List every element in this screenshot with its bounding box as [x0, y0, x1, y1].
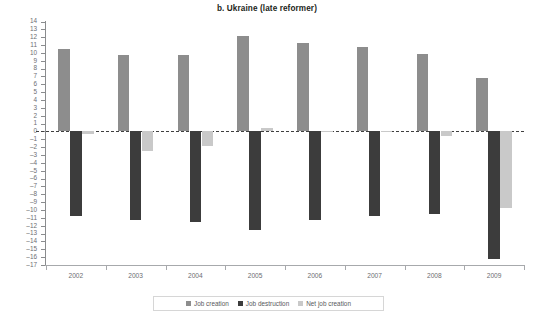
y-tick-label: 3 [33, 105, 37, 111]
x-tick-mark [524, 265, 525, 270]
bar-net-job-creation [441, 131, 453, 136]
legend-item: Net job creation [298, 300, 351, 307]
y-tick-label: –6 [30, 175, 37, 181]
x-tick-label-2004: 2004 [175, 272, 215, 279]
y-tick-label: –11 [27, 215, 37, 221]
y-tick-label: –14 [26, 238, 37, 244]
bar-net-job-creation [261, 128, 273, 132]
y-tick-label: 6 [33, 81, 37, 87]
bar-net-job-creation [202, 131, 214, 145]
chart-figure: b. Ukraine (late reformer) Percent 14131… [0, 0, 534, 319]
y-tick-label: 9 [33, 58, 37, 64]
y-tick-label: 1 [33, 120, 37, 126]
y-tick-label: –5 [30, 168, 37, 174]
x-tick-label-2006: 2006 [295, 272, 335, 279]
y-tick-label: –3 [30, 152, 37, 158]
y-tick-label: –4 [30, 160, 37, 166]
bar-job-destruction [249, 131, 261, 229]
y-axis: 14131211109876543210–1–2–3–4–5–6–7–8–9–1… [0, 0, 46, 319]
legend-item: Job creation [186, 300, 229, 307]
y-tick-label: –17 [26, 262, 37, 268]
x-tick-label-2008: 2008 [414, 272, 454, 279]
bar-job-creation [357, 47, 369, 131]
y-tick-label: 4 [33, 97, 37, 103]
bar-job-destruction [190, 131, 202, 221]
x-tick-label-2007: 2007 [355, 272, 395, 279]
y-tick-label: 5 [33, 89, 37, 95]
x-tick-mark [285, 265, 286, 270]
x-tick-mark [106, 265, 107, 270]
x-tick-label-2002: 2002 [56, 272, 96, 279]
x-tick-mark [46, 265, 47, 270]
y-tick-label: 2 [33, 113, 37, 119]
y-tick-label: –13 [26, 230, 37, 236]
x-tick-mark [464, 265, 465, 270]
chart-title: b. Ukraine (late reformer) [0, 4, 534, 13]
bar-net-job-creation [321, 131, 333, 132]
bar-job-creation [58, 49, 70, 131]
bar-job-destruction [309, 131, 321, 220]
x-tick-mark [345, 265, 346, 270]
y-tick-label: –2 [30, 144, 37, 150]
x-tick-mark [225, 265, 226, 270]
bar-job-creation [118, 55, 130, 131]
y-tick-label: –15 [26, 246, 37, 252]
y-tick-label: 8 [33, 65, 37, 71]
y-tick-label: –9 [30, 199, 37, 205]
bar-net-job-creation [500, 131, 512, 208]
y-tick-label: 10 [30, 50, 37, 56]
chart-legend: Job creationJob destructionNet job creat… [153, 296, 384, 311]
legend-label: Job creation [194, 300, 229, 307]
legend-swatch-icon [186, 301, 191, 306]
y-tick-label: 12 [30, 34, 37, 40]
bar-net-job-creation [142, 131, 154, 151]
legend-swatch-icon [298, 301, 303, 306]
bar-job-creation [237, 36, 249, 132]
bar-job-destruction [429, 131, 441, 213]
y-tick-label: –1 [30, 136, 37, 142]
y-tick-label: –8 [30, 191, 37, 197]
bar-job-creation [297, 43, 309, 131]
bar-net-job-creation [82, 131, 94, 133]
bar-net-job-creation [381, 131, 393, 132]
legend-label: Job destruction [246, 300, 289, 307]
y-tick-label: –7 [30, 183, 37, 189]
x-tick-mark [405, 265, 406, 270]
y-tick-label: –10 [26, 207, 37, 213]
y-tick-label: 7 [33, 73, 37, 79]
y-tick-label: –12 [26, 223, 37, 229]
bar-job-creation [417, 54, 429, 131]
x-tick-label-2005: 2005 [235, 272, 275, 279]
bar-job-destruction [70, 131, 82, 216]
x-tick-mark [166, 265, 167, 270]
y-tick-label: 11 [30, 42, 37, 48]
y-tick-label: 14 [30, 18, 37, 24]
bar-job-destruction [488, 131, 500, 259]
x-tick-label-2009: 2009 [474, 272, 514, 279]
y-tick-label: 13 [30, 26, 37, 32]
legend-item: Job destruction [238, 300, 289, 307]
y-tick-label: –16 [26, 254, 37, 260]
bar-job-destruction [369, 131, 381, 216]
x-tick-label-2003: 2003 [116, 272, 156, 279]
legend-label: Net job creation [306, 300, 351, 307]
bar-job-creation [476, 78, 488, 131]
bar-job-destruction [130, 131, 142, 220]
bar-job-creation [178, 55, 190, 131]
legend-swatch-icon [238, 301, 243, 306]
